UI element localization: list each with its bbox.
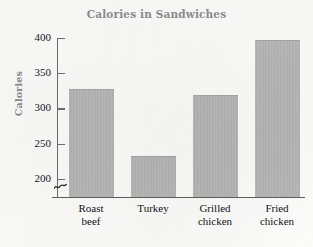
x-axis-label-line: Turkey (122, 202, 184, 215)
x-axis-label-fried-chicken: Friedchicken (246, 202, 308, 227)
y-tick-250 (58, 144, 65, 145)
x-axis-labels: RoastbeefTurkeyGrilledchickenFriedchicke… (57, 202, 305, 244)
bar-chart: Calories in Sandwiches Calories Roastbee… (0, 0, 313, 247)
y-tick-350 (58, 73, 65, 74)
y-tick-200 (58, 179, 65, 180)
x-axis-label-grilled-chicken: Grilledchicken (184, 202, 246, 227)
x-axis-label-turkey: Turkey (122, 202, 184, 215)
bar-grilled-chicken[interactable] (193, 95, 238, 197)
x-axis-label-line: chicken (184, 215, 246, 228)
x-axis-label-line: beef (60, 215, 122, 228)
bar-fried-chicken[interactable] (255, 40, 300, 197)
y-axis-label: Calories (13, 64, 24, 124)
x-axis-label-line: Roast (60, 202, 122, 215)
bar-roast-beef[interactable] (69, 89, 114, 197)
y-tick-400 (58, 38, 65, 39)
axis-break-icon (54, 182, 67, 191)
bar-turkey[interactable] (131, 156, 176, 197)
y-axis-line (57, 38, 58, 197)
x-axis-label-line: Fried (246, 202, 308, 215)
x-axis-label-line: chicken (246, 215, 308, 228)
chart-title: Calories in Sandwiches (0, 8, 313, 20)
y-tick-300 (58, 108, 65, 109)
plot-area (57, 36, 305, 199)
x-axis-label-roast-beef: Roastbeef (60, 202, 122, 227)
x-axis-label-line: Grilled (184, 202, 246, 215)
x-axis-line (52, 197, 305, 198)
